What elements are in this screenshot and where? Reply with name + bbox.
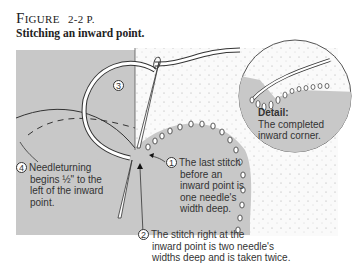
callout-1: 1The last stitch before an inward point … [166, 157, 266, 215]
callout-2: 2The stitch right at the inward point is… [138, 229, 338, 264]
callout-3: 3 [113, 80, 126, 92]
detail-caption: Detail: The completed inward corner. [258, 107, 348, 142]
callout-4: 4Needleturning begins ½" to the left of … [16, 162, 126, 208]
